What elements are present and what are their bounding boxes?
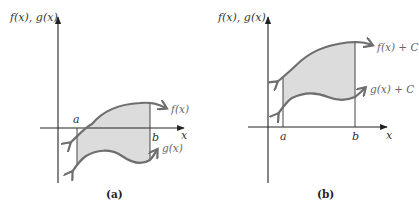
- panel-a: f(x), g(x) x a b f(x) g(x) (a): [9, 11, 189, 200]
- f-label-a: f(x): [170, 103, 189, 115]
- g-plus-c-label-b: g(x) + C: [370, 83, 414, 95]
- bound-a-label-a: a: [73, 113, 80, 126]
- f-plus-c-label-b: f(x) + C: [376, 41, 419, 53]
- y-axis-label-b: f(x), g(x): [217, 11, 266, 24]
- bound-b-label-b: b: [352, 130, 359, 143]
- figure: f(x), g(x) x a b f(x) g(x) (a) f(x), g(x…: [0, 0, 419, 204]
- g-label-a: g(x): [162, 142, 183, 154]
- caption-a: (a): [106, 188, 123, 200]
- panel-b: f(x), g(x) x a b f(x) + C g(x) + C (b): [217, 11, 419, 200]
- bound-b-label-a: b: [152, 131, 159, 144]
- bound-a-label-b: a: [280, 130, 287, 143]
- caption-b: (b): [317, 188, 334, 200]
- y-axis-label-a: f(x), g(x): [9, 11, 58, 24]
- x-axis-label-a: x: [181, 129, 188, 142]
- x-axis-label-b: x: [386, 129, 393, 142]
- shaded-region-b: [283, 42, 355, 105]
